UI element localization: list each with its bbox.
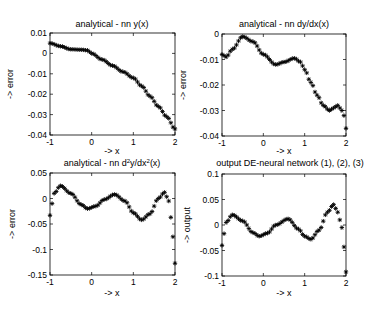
x-tick-label: 1 bbox=[302, 278, 307, 288]
data-point-marker bbox=[133, 77, 137, 81]
data-point-marker bbox=[257, 48, 261, 52]
data-point-marker bbox=[307, 77, 311, 81]
data-point-marker bbox=[267, 230, 271, 234]
y-axis-label: -> error bbox=[5, 69, 15, 99]
data-point-marker bbox=[158, 106, 162, 110]
x-tick-label: 1 bbox=[131, 277, 136, 287]
data-point-marker bbox=[164, 195, 168, 199]
x-tick-label: 0 bbox=[89, 277, 94, 287]
subplot-title: analytical - nn y(x) bbox=[75, 19, 148, 29]
data-point-marker bbox=[71, 192, 75, 196]
y-tick-label: -0.05 bbox=[200, 246, 220, 256]
data-point-marker bbox=[167, 116, 171, 120]
data-point-marker bbox=[162, 190, 166, 194]
y-tick-label: 0 bbox=[214, 29, 219, 39]
y-tick-label: 0 bbox=[42, 194, 47, 204]
x-tick-label: 2 bbox=[344, 138, 349, 148]
data-point-marker bbox=[340, 225, 344, 229]
y-tick-label: -0.02 bbox=[28, 89, 48, 99]
x-tick-label: -1 bbox=[46, 277, 54, 287]
x-axis-label: -> x bbox=[104, 146, 120, 156]
y-tick-label: -0.01 bbox=[200, 55, 220, 65]
data-point-marker bbox=[319, 225, 323, 229]
data-point-marker bbox=[169, 121, 173, 125]
data-point-marker bbox=[171, 235, 175, 239]
data-point-marker bbox=[234, 43, 238, 47]
y-tick-label: -0.03 bbox=[200, 106, 220, 116]
data-point-marker bbox=[152, 99, 156, 103]
x-tick-label: 2 bbox=[173, 277, 178, 287]
y-axis-label: -> error bbox=[178, 70, 188, 100]
data-point-marker bbox=[342, 245, 346, 249]
x-axis-label: -> x bbox=[276, 146, 292, 156]
y-tick-label: 0.05 bbox=[202, 195, 219, 205]
data-point-marker bbox=[336, 210, 340, 214]
figure: analytical - nn y(x) -10120.010-0.01-0.0… bbox=[0, 0, 368, 316]
data-point-marker bbox=[344, 270, 348, 274]
subplot-title: analytical - nn d2y/dx2(x) bbox=[64, 158, 161, 168]
y-tick-label: 0 bbox=[214, 220, 219, 230]
data-point-marker bbox=[344, 126, 348, 130]
y-tick-label: 0.01 bbox=[30, 28, 47, 38]
y-tick-label: 0.1 bbox=[207, 169, 219, 179]
data-point-marker bbox=[321, 219, 325, 223]
data-point-marker bbox=[167, 199, 171, 203]
y-tick-label: -0.15 bbox=[28, 270, 48, 280]
x-tick-label: 1 bbox=[302, 138, 307, 148]
data-point-marker bbox=[127, 205, 131, 209]
data-point-marker bbox=[247, 226, 251, 230]
y-tick-label: -0.04 bbox=[28, 130, 48, 140]
data-point-marker bbox=[236, 39, 240, 43]
x-tick-label: 0 bbox=[261, 138, 266, 148]
data-point-marker bbox=[269, 227, 273, 231]
x-tick-label: 0 bbox=[261, 278, 266, 288]
data-point-marker bbox=[342, 113, 346, 117]
x-tick-label: 0 bbox=[89, 137, 94, 147]
data-point-marker bbox=[309, 80, 313, 84]
data-point-marker bbox=[311, 83, 315, 87]
data-point-marker bbox=[48, 213, 52, 217]
y-tick-label: 0.05 bbox=[30, 168, 47, 178]
x-tick-label: 2 bbox=[173, 137, 178, 147]
data-point-marker bbox=[150, 209, 154, 213]
data-point-marker bbox=[173, 261, 177, 265]
data-point-marker bbox=[220, 243, 224, 247]
data-point-marker bbox=[125, 201, 129, 205]
y-tick-label: -0.05 bbox=[28, 219, 48, 229]
data-point-marker bbox=[313, 90, 317, 94]
x-tick-label: 2 bbox=[344, 278, 349, 288]
data-point-marker bbox=[317, 96, 321, 100]
data-point-marker bbox=[245, 223, 249, 227]
data-point-marker bbox=[311, 236, 315, 240]
data-point-marker bbox=[313, 232, 317, 236]
y-tick-label: -0.01 bbox=[28, 69, 48, 79]
subplot-title: analytical - nn dy/dx(x) bbox=[239, 19, 329, 29]
data-point-marker bbox=[300, 64, 304, 68]
data-point-marker bbox=[169, 215, 173, 219]
x-axis-label: -> x bbox=[104, 288, 120, 298]
data-point-marker bbox=[333, 206, 337, 210]
data-point-marker bbox=[152, 204, 156, 208]
data-point-marker bbox=[331, 202, 335, 206]
data-point-marker bbox=[75, 199, 79, 203]
data-point-marker bbox=[144, 89, 148, 93]
y-tick-label: 0 bbox=[42, 48, 47, 58]
data-point-marker bbox=[54, 189, 58, 193]
y-axis-label: -> output bbox=[182, 207, 192, 243]
y-tick-label: -0.04 bbox=[200, 131, 220, 141]
data-point-marker bbox=[340, 108, 344, 112]
data-point-marker bbox=[243, 220, 247, 224]
data-point-marker bbox=[73, 195, 77, 199]
data-point-marker bbox=[305, 71, 309, 75]
data-point-marker bbox=[290, 220, 294, 224]
data-point-marker bbox=[302, 68, 306, 72]
x-tick-label: -1 bbox=[218, 138, 226, 148]
data-point-marker bbox=[173, 127, 177, 131]
data-point-marker bbox=[142, 85, 146, 89]
data-point-marker bbox=[226, 218, 230, 222]
data-point-marker bbox=[158, 195, 162, 199]
y-tick-label: -0.03 bbox=[28, 110, 48, 120]
data-point-marker bbox=[160, 109, 164, 113]
data-point-marker bbox=[226, 53, 230, 57]
y-tick-label: -0.1 bbox=[204, 271, 219, 281]
